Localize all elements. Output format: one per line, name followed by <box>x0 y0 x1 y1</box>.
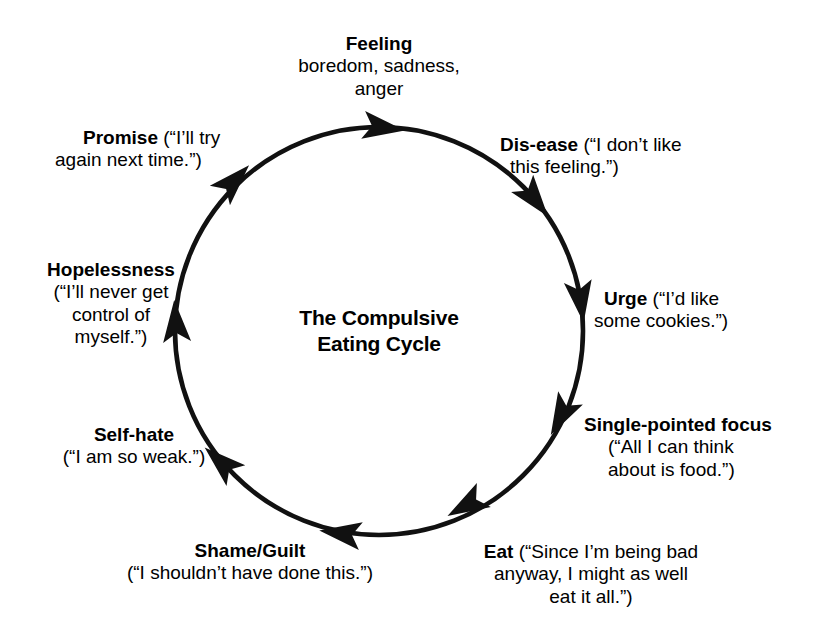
stage-label-self-hate: Self-hate (“I am so weak.”) <box>36 424 232 469</box>
stage-label-hopelessness: Hopelessness (“I’ll never get control of… <box>18 259 204 349</box>
stage-quote-urge-line-2: some cookies.”) <box>594 310 804 332</box>
stage-quote-eat-line-2: anyway, I might as well <box>441 563 741 585</box>
arrowhead-lower-right <box>538 391 582 441</box>
stage-quote-dis-ease-line-1: (“I don’t like <box>578 134 681 155</box>
stage-term-single-pointed-focus: Single-pointed focus <box>584 414 772 435</box>
stage-label-dis-ease: Dis-ease (“I don’t like this feeling.”) <box>500 134 730 179</box>
stage-quote-self-hate-line-1: (“I am so weak.”) <box>36 446 232 468</box>
stage-term-urge: Urge <box>604 288 647 309</box>
stage-term-hopelessness: Hopelessness <box>47 259 175 280</box>
stage-label-shame-guilt: Shame/Guilt (“I shouldn’t have done this… <box>85 540 415 585</box>
stage-label-eat: Eat (“Since I’m being bad anyway, I migh… <box>441 541 741 608</box>
center-title: The Compulsive Eating Cycle <box>279 305 479 356</box>
stage-quote-promise-line-2: again next time.”) <box>55 149 295 171</box>
stage-quote-focus-line-1: (“All I can think <box>584 436 819 458</box>
stage-quote-hopelessness-line-2: control of <box>18 304 204 326</box>
stage-term-self-hate: Self-hate <box>94 424 174 445</box>
stage-term-dis-ease: Dis-ease <box>500 134 578 155</box>
stage-quote-dis-ease-line-2: this feeling.”) <box>500 156 730 178</box>
stage-label-single-pointed-focus: Single-pointed focus (“All I can think a… <box>584 414 819 481</box>
stage-term-feeling: Feeling <box>346 33 413 54</box>
stage-quote-feeling-line-1: boredom, sadness, <box>259 55 499 77</box>
stage-quote-urge-line-1: (“I’d like <box>647 288 719 309</box>
stage-term-promise: Promise <box>83 127 158 148</box>
stage-quote-hopelessness-line-3: myself.”) <box>18 326 204 348</box>
stage-term-eat: Eat <box>484 541 514 562</box>
stage-quote-hopelessness-line-1: (“I’ll never get <box>18 281 204 303</box>
stage-quote-eat-line-1: (“Since I’m being bad <box>513 541 698 562</box>
stage-quote-shame-line-1: (“I shouldn’t have done this.”) <box>85 562 415 584</box>
center-title-line-1: The Compulsive <box>279 305 479 331</box>
stage-label-urge: Urge (“I’d like some cookies.”) <box>604 288 804 333</box>
stage-label-feeling: Feeling boredom, sadness, anger <box>259 33 499 100</box>
stage-label-promise: Promise (“I’ll try again next time.”) <box>55 127 295 172</box>
stage-quote-promise-line-1: (“I’ll try <box>158 127 220 148</box>
compulsive-eating-cycle-diagram: The Compulsive Eating Cycle Feeling bore… <box>0 0 819 639</box>
stage-term-shame-guilt: Shame/Guilt <box>195 540 306 561</box>
center-title-line-2: Eating Cycle <box>279 331 479 357</box>
stage-quote-eat-line-3: eat it all.”) <box>441 586 741 608</box>
stage-quote-feeling-line-2: anger <box>259 78 499 100</box>
stage-quote-focus-line-2: about is food.”) <box>584 459 819 481</box>
